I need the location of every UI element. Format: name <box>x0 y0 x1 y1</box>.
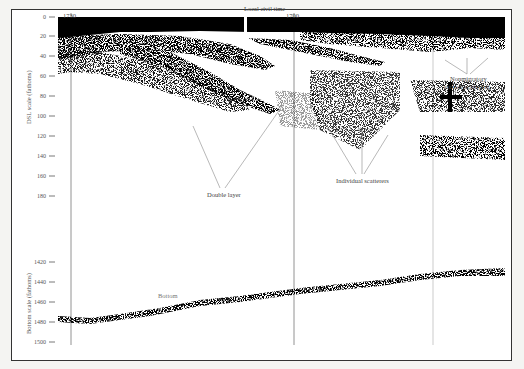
nonmigratory-label-line1: Nonmigratory <box>450 76 487 83</box>
bottom-label: Bottom <box>158 293 178 300</box>
dsl-tick: 20 <box>16 33 46 39</box>
individual-scatterers-label: Individual scatterers <box>336 178 389 185</box>
dsl-axis-ticks <box>49 17 55 196</box>
bottom-tick: 1420 <box>16 259 46 265</box>
time-mark-1730: 1730 <box>63 13 76 20</box>
dsl-tick: 180 <box>16 193 46 199</box>
dsl-tick: 40 <box>16 53 46 59</box>
time-mark-1700: 1700 <box>286 13 299 20</box>
bottom-tick: 1500 <box>16 339 46 345</box>
dsl-tick: 120 <box>16 133 46 139</box>
nonmigratory-label-line2: surface scattering <box>444 84 490 91</box>
dsl-axis-title: DSL scale (fathoms) <box>25 70 32 124</box>
dsl-tick: 140 <box>16 153 46 159</box>
bottom-axis-title: Bottom scale (fathoms) <box>25 273 32 334</box>
dsl-tick: 160 <box>16 173 46 179</box>
double-layer-label: Double layer <box>207 192 241 199</box>
bottom-axis-ticks <box>49 262 55 342</box>
local-civil-time-label: Local civil time <box>244 6 285 13</box>
dsl-tick: 0 <box>16 14 46 20</box>
echogram <box>0 0 524 369</box>
